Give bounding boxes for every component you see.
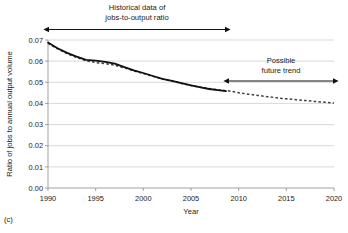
annotation-historical-line2: jobs-to-output ratio: [104, 13, 168, 22]
x-tick-label: 2020: [326, 194, 342, 203]
y-tick-label: 0.07: [29, 36, 43, 45]
x-axis-title: Year: [183, 207, 199, 216]
annotation-future-line2: future trend: [262, 66, 301, 75]
y-axis-title: Ratio of jobs to annual output volume: [5, 51, 14, 176]
y-tick-label: 0.02: [29, 141, 43, 150]
annotation-historical-line1: Historical data of: [109, 3, 166, 12]
x-tick-label: 2000: [135, 194, 151, 203]
x-tick-label: 1995: [87, 194, 103, 203]
y-tick-label: 0.01: [29, 163, 43, 172]
x-tick-label: 1990: [40, 194, 56, 203]
y-tick-label: 0.00: [29, 184, 43, 193]
chart-svg: 0.07 0.06 0.05 0.04 0.03 0.02 0.01 0.00 …: [0, 0, 348, 233]
panel-label: (c): [4, 215, 13, 224]
x-tick-label: 2015: [278, 194, 294, 203]
y-tick-label: 0.03: [29, 120, 43, 129]
y-tick-label: 0.05: [29, 78, 43, 87]
annotation-future-line1: Possible: [267, 56, 296, 65]
y-tick-label: 0.04: [29, 99, 43, 108]
y-tick-label: 0.06: [29, 57, 43, 66]
x-tick-label: 2010: [230, 194, 246, 203]
figure-panel: 0.07 0.06 0.05 0.04 0.03 0.02 0.01 0.00 …: [0, 0, 348, 233]
x-tick-label: 2005: [183, 194, 199, 203]
